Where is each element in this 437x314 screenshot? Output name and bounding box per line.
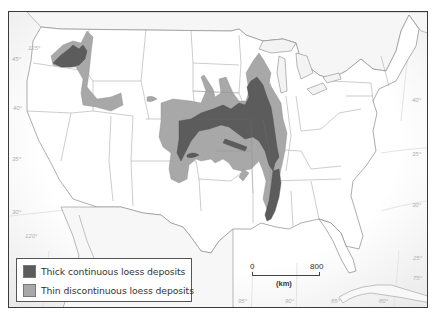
longitude-label: 75° xyxy=(413,275,422,281)
map-legend: Thick continuous loess deposits Thin dis… xyxy=(16,258,192,302)
scale-bar-line xyxy=(252,272,320,276)
latitude-label: 45° xyxy=(12,56,21,62)
longitude-label: 80° xyxy=(379,298,388,304)
scale-end-label: 800 xyxy=(310,262,323,271)
longitude-label: 85° xyxy=(331,298,340,304)
longitude-label: 95° xyxy=(238,298,247,304)
longitude-label: 120° xyxy=(25,233,37,239)
latitude-label: 40° xyxy=(13,105,22,111)
latitude-label: 35° xyxy=(412,151,421,157)
latitude-label: 40° xyxy=(412,97,421,103)
legend-item-thin: Thin discontinuous loess deposits xyxy=(23,283,194,297)
latitude-label: 25° xyxy=(413,255,422,261)
latitude-label: 30° xyxy=(412,202,421,208)
thick-loess-swatch xyxy=(23,265,36,278)
legend-label: Thin discontinuous loess deposits xyxy=(41,285,194,296)
longitude-label: 90° xyxy=(285,298,294,304)
latitude-label: 35° xyxy=(12,156,21,162)
longitude-label: 125° xyxy=(28,45,40,51)
legend-label: Thick continuous loess deposits xyxy=(41,266,185,277)
legend-item-thick: Thick continuous loess deposits xyxy=(23,264,185,278)
scale-start-label: 0 xyxy=(250,262,254,271)
scale-bar: 0 800 (km) xyxy=(250,262,324,292)
scale-unit-label: (km) xyxy=(276,279,292,288)
thin-loess-swatch xyxy=(23,284,36,297)
latitude-label: 30° xyxy=(12,209,21,215)
